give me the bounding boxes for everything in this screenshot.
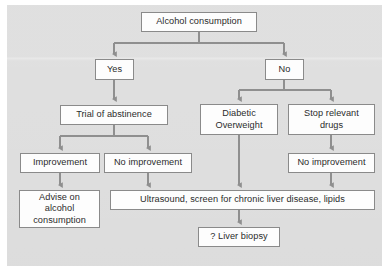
node-diabetic-overweight: Diabetic Overweight	[200, 104, 278, 135]
node-no-improvement-left: No improvement	[104, 153, 192, 173]
node-stop-relevant-drugs: Stop relevant drugs	[288, 104, 375, 135]
node-yes: Yes	[95, 59, 134, 80]
node-no: No	[265, 59, 304, 80]
flowchart-figure: Alcohol consumption Yes No Trial of abst…	[0, 0, 389, 279]
node-ultrasound-screen: Ultrasound, screen for chronic liver dis…	[110, 190, 375, 210]
node-improvement: Improvement	[20, 153, 100, 173]
flowchart-connectors	[0, 0, 389, 279]
node-liver-biopsy: ? Liver biopsy	[198, 227, 280, 247]
node-no-improvement-right: No improvement	[288, 153, 375, 173]
node-alcohol-consumption: Alcohol consumption	[141, 12, 257, 32]
node-trial-of-abstinence: Trial of abstinence	[60, 105, 168, 125]
node-advise-on-alcohol-consumption: Advise on alcohol consumption	[19, 190, 100, 228]
